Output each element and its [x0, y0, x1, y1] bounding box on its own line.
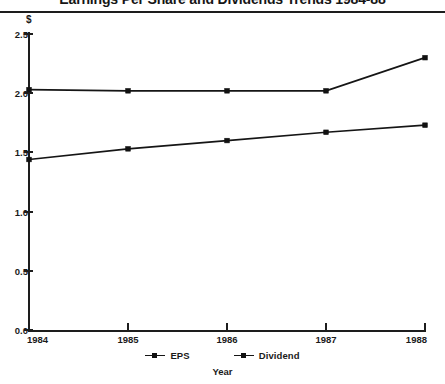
- data-point-dividend-1988: [423, 123, 428, 128]
- x-axis-title: Year: [0, 366, 445, 377]
- legend-label: Dividend: [259, 350, 300, 361]
- data-point-eps-1987: [324, 89, 329, 94]
- chart-legend: EPSDividend: [0, 350, 445, 361]
- plot-area: $ 0.00.51.01.52.02.5 1984198519861987198…: [0, 0, 445, 384]
- data-point-dividend-1985: [126, 147, 131, 152]
- data-point-eps-1986: [225, 89, 230, 94]
- legend-item-eps[interactable]: EPS: [145, 350, 189, 361]
- data-point-dividend-1984: [27, 157, 32, 162]
- data-point-eps-1984: [27, 87, 32, 92]
- legend-marker-icon: [234, 352, 254, 360]
- legend-item-dividend[interactable]: Dividend: [234, 350, 300, 361]
- legend-label: EPS: [170, 350, 189, 361]
- series-line-eps: [29, 58, 425, 91]
- series-layer: [0, 0, 445, 384]
- legend-marker-icon: [145, 352, 165, 360]
- data-point-eps-1985: [126, 89, 131, 94]
- data-point-dividend-1987: [324, 130, 329, 135]
- data-point-eps-1988: [423, 55, 428, 60]
- data-point-dividend-1986: [225, 138, 230, 143]
